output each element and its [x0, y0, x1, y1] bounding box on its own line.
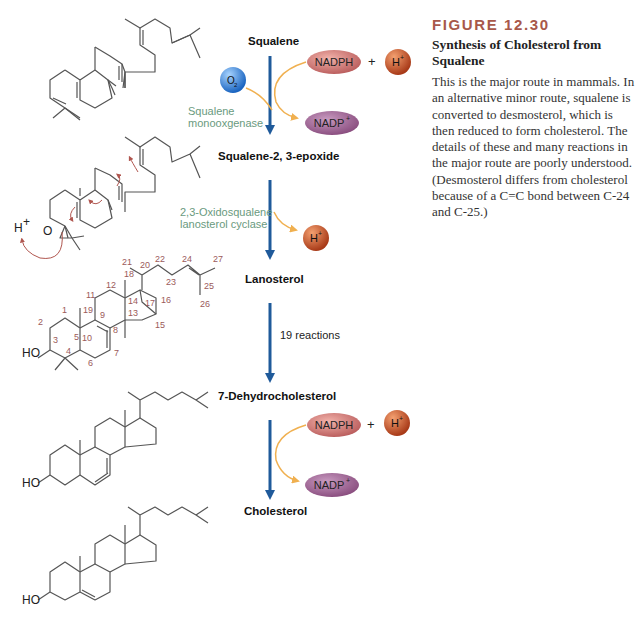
squalene-structure — [50, 19, 200, 120]
dehydrocholesterol-structure: HO — [22, 392, 208, 490]
carbon-number-16: 16 — [161, 295, 171, 305]
carbon-number-1: 1 — [62, 305, 67, 315]
side-arrow-nadph-to-nadp-2 — [276, 425, 306, 481]
carbon-number-10: 10 — [82, 333, 92, 343]
figure-caption: FIGURE 12.30 Synthesis of Cholesterol fr… — [432, 16, 637, 221]
enzyme-squalene-monooxygenase-line2: monooxgenase — [188, 117, 263, 129]
svg-text:H: H — [392, 56, 400, 68]
carbon-number-15: 15 — [155, 320, 165, 330]
figure-number: FIGURE 12.30 — [432, 16, 637, 33]
cholesterol-hydroxyl: HO — [22, 593, 40, 607]
carbon-number-21: 21 — [122, 257, 132, 267]
cholesterol-structure: HO — [22, 507, 208, 607]
carbon-number-9: 9 — [100, 310, 105, 320]
enzyme-oxidosqualene-cyclase-line2: lanosterol cyclase — [180, 218, 267, 230]
carbon-number-17: 17 — [145, 298, 155, 308]
svg-text:NADPH: NADPH — [315, 56, 354, 68]
svg-text:+: + — [399, 415, 403, 422]
carbon-number-19: 19 — [83, 305, 93, 315]
side-arrow-o2 — [246, 88, 272, 110]
compound-epoxide: Squalene-2, 3-epoxide — [218, 150, 339, 162]
oxygen-molecule: O 2 — [220, 67, 246, 93]
carbon-number-20: 20 — [140, 260, 150, 270]
svg-text:+: + — [346, 477, 350, 484]
carbon-number-22: 22 — [155, 254, 165, 264]
carbon-number-2: 2 — [38, 317, 43, 327]
figure-description: This is the major route in mammals. In a… — [432, 74, 637, 221]
enzyme-squalene-monooxygenase-line1: Squalene — [188, 105, 235, 117]
nadp-cofactor-2: NADP + — [305, 473, 359, 497]
carbon-number-23: 23 — [166, 277, 176, 287]
proton-released: H + — [303, 225, 329, 251]
svg-text:NADP: NADP — [314, 117, 345, 129]
svg-text:+: + — [318, 230, 322, 237]
carbon-number-14: 14 — [128, 296, 138, 306]
carbon-number-13: 13 — [128, 308, 138, 318]
svg-text:+: + — [400, 54, 404, 61]
side-arrow-proton-release — [274, 212, 296, 230]
carbon-number-5: 5 — [74, 332, 79, 342]
carbon-number-18: 18 — [124, 269, 134, 279]
proton-cofactor: H + — [385, 49, 411, 75]
proton-cofactor-2: H + — [384, 410, 410, 436]
nadp-cofactor: NADP + — [305, 111, 359, 135]
plus-sign-2: + — [367, 417, 375, 432]
nadph-cofactor-2: NADPH — [307, 413, 361, 437]
carbon-number-4: 4 — [66, 346, 71, 356]
carbon-number-12: 12 — [106, 280, 116, 290]
carbon-number-6: 6 — [88, 358, 93, 368]
proton-atom-charge: + — [23, 215, 30, 229]
epoxide-structure: O H + — [14, 137, 200, 258]
nadph-cofactor: NADPH — [307, 50, 361, 74]
carbon-number-7: 7 — [114, 348, 119, 358]
carbon-number-24: 24 — [182, 254, 192, 264]
svg-text:H: H — [310, 232, 318, 244]
svg-text:NADP: NADP — [314, 479, 345, 491]
svg-text:H: H — [391, 417, 399, 429]
compound-squalene: Squalene — [248, 35, 299, 47]
lanosterol-hydroxyl: HO — [22, 346, 40, 360]
side-arrow-nadph-to-nadp — [275, 62, 306, 118]
carbon-number-11: 11 — [86, 290, 95, 300]
svg-text:NADPH: NADPH — [315, 419, 354, 431]
proton-atom: H — [14, 221, 23, 235]
compound-lanosterol: Lanosterol — [245, 273, 304, 285]
plus-sign: + — [368, 54, 376, 69]
carbon-number-3: 3 — [53, 335, 58, 345]
carbon-number-26: 26 — [200, 299, 210, 309]
compound-cholesterol: Cholesterol — [244, 505, 307, 517]
step-19-reactions: 19 reactions — [280, 329, 340, 341]
compound-dehydrocholesterol: 7-Dehydrocholesterol — [218, 390, 336, 402]
figure-title: Synthesis of Cholesterol from Squalene — [432, 37, 637, 69]
svg-text:+: + — [346, 115, 350, 122]
epoxide-oxygen-atom: O — [43, 224, 52, 238]
carbon-number-27: 27 — [213, 254, 223, 264]
enzyme-oxidosqualene-cyclase-line1: 2,3-Oxidosqualene — [180, 206, 272, 218]
carbon-number-8: 8 — [113, 325, 118, 335]
dehydrocholesterol-hydroxyl: HO — [22, 476, 40, 490]
carbon-number-25: 25 — [204, 281, 214, 291]
